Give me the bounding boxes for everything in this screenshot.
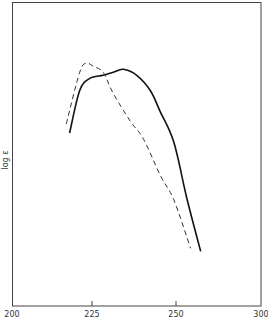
chart: 200225250300 log ε — [0, 0, 268, 320]
x-tick-label: 200 — [4, 310, 19, 319]
solid-curve — [70, 69, 201, 251]
dashed-curve — [66, 63, 190, 248]
x-tick-label: 225 — [84, 310, 99, 319]
x-tick-label: 300 — [253, 310, 268, 319]
x-tick-labels: 200225250300 — [4, 310, 268, 319]
y-axis-label: log ε — [1, 150, 10, 169]
x-ticks — [92, 301, 176, 306]
plot-frame — [13, 3, 262, 307]
x-tick-label: 250 — [168, 310, 183, 319]
